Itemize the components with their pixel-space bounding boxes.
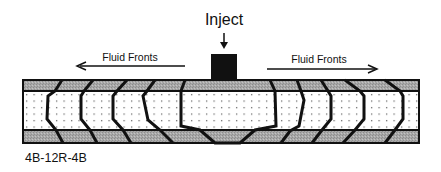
bottom-bounding-layer <box>23 130 419 143</box>
caption: 4B-12R-4B <box>25 151 87 165</box>
injection-well-block <box>211 54 237 80</box>
right-arrow-icon <box>267 65 377 73</box>
diagram-canvas: Inject Fluid Fronts Fluid Fronts 4B-12R-… <box>0 0 441 172</box>
inject-label: Inject <box>205 11 244 28</box>
right-fronts-label: Fluid Fronts <box>291 53 346 65</box>
inject-arrow-icon <box>220 33 228 49</box>
left-fronts-label: Fluid Fronts <box>102 51 157 63</box>
left-arrow-icon <box>77 62 185 70</box>
